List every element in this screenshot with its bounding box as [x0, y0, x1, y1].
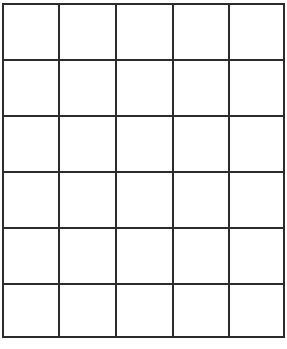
grid-row-divider	[4, 59, 283, 61]
grid-row-divider	[4, 283, 283, 285]
grid-row-divider	[4, 227, 283, 229]
grid-row-divider	[4, 171, 283, 173]
empty-grid	[2, 3, 285, 338]
grid-row-divider	[4, 115, 283, 117]
